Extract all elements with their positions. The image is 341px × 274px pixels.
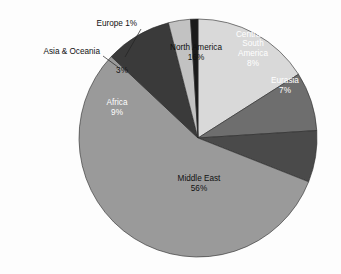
slice-value-eurasia: 7% [279, 86, 291, 95]
slice-label-africa: Africa [107, 98, 128, 107]
asia-oceania-callout-label: Asia & Oceania [44, 47, 101, 56]
pie-chart-container: North America16%Central &SouthAmerica8%E… [0, 0, 341, 274]
slice-value-central-and-south-america: 8% [247, 59, 259, 68]
slice-label-central-and-south-america: South [242, 39, 264, 48]
slice-label-north-america: North America [170, 43, 222, 52]
slice-value-asia-and-oceania: 3% [116, 66, 128, 75]
europe-callout-label: Europe 1% [96, 19, 137, 28]
slice-label-central-and-south-america: America [238, 49, 268, 58]
slice-label-central-and-south-america: Central & [236, 30, 271, 39]
slice-label-eurasia: Eurasia [271, 76, 299, 85]
slice-label-middle-east: Middle East [178, 174, 222, 183]
slice-value-africa: 9% [111, 108, 123, 117]
slice-value-middle-east: 56% [191, 184, 207, 193]
slice-value-north-america: 16% [188, 53, 204, 62]
pie-chart-canvas: North America16%Central &SouthAmerica8%E… [0, 0, 341, 274]
